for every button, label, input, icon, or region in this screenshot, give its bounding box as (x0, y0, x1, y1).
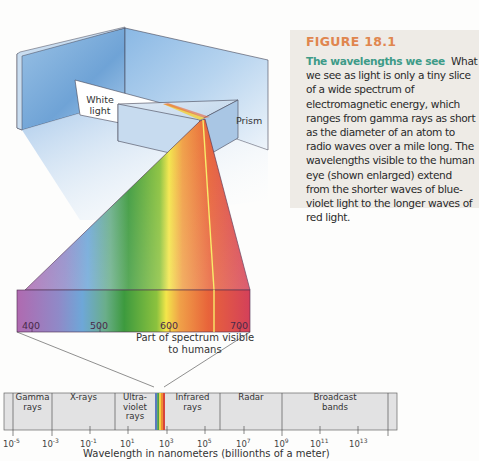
band-radar: Radar (220, 393, 282, 403)
axis-tick-label: 10-5 (3, 437, 20, 449)
figure-body: What we see as light is only a tiny slic… (306, 55, 477, 223)
figure-title: The wavelengths we see (306, 55, 445, 67)
band-broadcast: Broadcast bands (282, 393, 388, 412)
band-x-rays: X-rays (52, 393, 115, 403)
band-line: rays (13, 403, 52, 413)
white-light-line1: White (80, 94, 120, 105)
visible-tick-400: 400 (22, 320, 40, 331)
axis-title: Wavelength in nanometers (billionths of … (83, 448, 330, 459)
band-gamma-rays: Gamma rays (13, 393, 52, 412)
visible-tick-500: 500 (90, 320, 108, 331)
band-infrared: Infrared rays (165, 393, 220, 412)
visible-tick-700: 700 (230, 320, 248, 331)
band-line: rays (165, 403, 220, 413)
axis-tick-label: 10-3 (42, 437, 59, 449)
visible-tick-600: 600 (160, 320, 178, 331)
band-ultraviolet: Ultra- violet rays (115, 393, 155, 422)
white-light-line2: light (80, 105, 120, 116)
band-line: bands (282, 403, 388, 413)
visible-label-line1: Part of spectrum visible (120, 332, 270, 344)
band-line: rays (115, 412, 155, 422)
axis-tick-label: 1013 (349, 437, 367, 449)
visible-spectrum-label: Part of spectrum visible to humans (120, 332, 270, 356)
visible-label-line2: to humans (120, 344, 270, 356)
prism-label: Prism (236, 115, 262, 126)
white-light-label: White light (80, 94, 120, 116)
figure-caption: The wavelengths we see What we see as li… (306, 54, 478, 224)
band-line: X-rays (52, 393, 115, 403)
visible-spectrum-band (17, 290, 250, 332)
band-line: Radar (220, 393, 282, 403)
figure-number: FIGURE 18.1 (306, 34, 396, 49)
